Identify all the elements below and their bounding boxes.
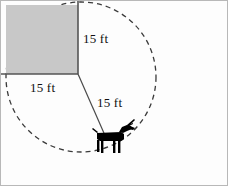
label-horizontal-side: 15 ft — [30, 81, 55, 94]
label-tether-radius: 15 ft — [97, 96, 122, 109]
goat-icon — [92, 119, 135, 153]
shed-square-icon — [6, 5, 78, 74]
label-vertical-side: 15 ft — [83, 32, 108, 45]
figure-canvas: 15 ft 15 ft 15 ft — [0, 0, 228, 186]
